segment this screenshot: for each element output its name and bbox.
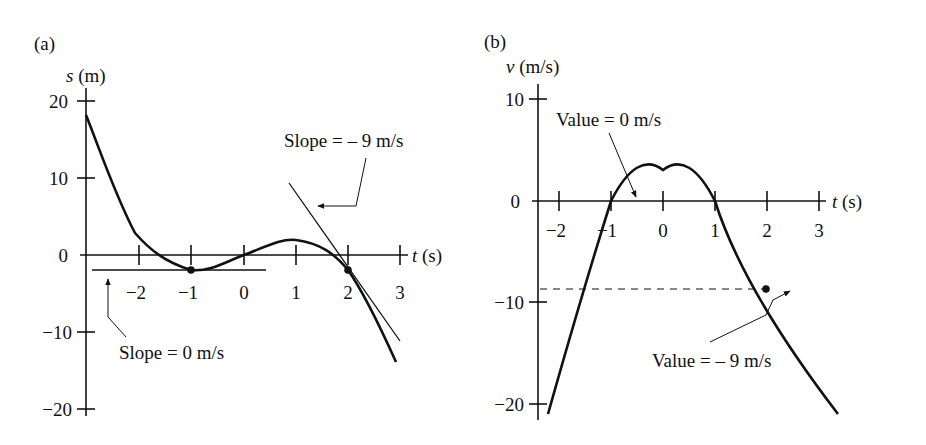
annotation-slope-zero: Slope = 0 m/s (119, 342, 224, 363)
panel-a-tag: (a) (34, 33, 55, 55)
annotation-arrow-value-zero (609, 133, 636, 197)
point-t-minus-1 (187, 266, 195, 274)
panel-b-x-tick-label: 0 (658, 220, 668, 241)
panel-b-y-axis-label: v (m/s) (506, 56, 559, 78)
panel-a-x-axis-label: t (s) (412, 245, 442, 267)
panel-a-x-tick-label: 1 (291, 282, 301, 303)
annotation-value-zero: Value = 0 m/s (556, 109, 661, 130)
velocity-curve (548, 164, 838, 414)
position-curve (86, 115, 396, 362)
panel-b-x-axis-label: t (s) (832, 191, 862, 213)
annotation-arrow-slope-zero (108, 279, 126, 337)
panel-a-y-tick-label: 0 (59, 245, 69, 266)
point-t-2 (344, 266, 352, 274)
panel-b-x-tick-label: 1 (710, 220, 720, 241)
annotation-arrow-value-minus-9 (710, 291, 790, 342)
panel-b-tag: (b) (484, 31, 506, 53)
panel-b-x-tick-label: −2 (546, 220, 566, 241)
panel-b-x-tick-label: 3 (814, 220, 824, 241)
annotation-arrow-slope-minus-9 (318, 158, 366, 206)
panel-a-y-tick-label: −10 (42, 322, 72, 343)
panel-a-y-axis-label: s (m) (66, 65, 106, 87)
panel-a-x-tick-label: 3 (395, 282, 405, 303)
panel-b-y-tick-label: −10 (494, 292, 524, 313)
panel-b-x-tick-label: 2 (762, 220, 772, 241)
panel-a-x-tick-label: 2 (343, 282, 353, 303)
panel-a-x-tick-label: −2 (126, 282, 146, 303)
panel-b-y-tick-label: 10 (505, 89, 524, 110)
panel-b-y-tick-label: 0 (511, 191, 521, 212)
panel-a-x-tick-label: −1 (178, 282, 198, 303)
panel-b: (b) v (m/s) 10 0 −10 −20 −2 −1 0 1 2 3 (484, 31, 862, 420)
panel-a-y-tick-label: −20 (42, 399, 72, 420)
point-t-2 (762, 285, 770, 293)
panel-a-x-tick-label: 0 (239, 282, 249, 303)
panel-a-y-tick-label: 10 (49, 168, 68, 189)
annotation-slope-minus-9: Slope = – 9 m/s (284, 130, 403, 151)
panel-b-y-tick-label: −20 (494, 394, 524, 415)
tangent-line-slope-minus-9 (289, 183, 400, 341)
panel-a: (a) s (m) 20 10 0 −10 −20 −2 −1 0 1 (34, 33, 442, 420)
panel-a-y-tick-label: 20 (49, 91, 68, 112)
figure: (a) s (m) 20 10 0 −10 −20 −2 −1 0 1 (0, 0, 926, 445)
annotation-value-minus-9: Value = – 9 m/s (652, 350, 771, 371)
